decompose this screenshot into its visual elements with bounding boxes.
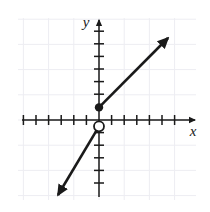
graph-canvas: y x	[0, 0, 210, 212]
closed-endpoint	[95, 103, 103, 111]
x-axis-label: x	[189, 123, 197, 139]
open-endpoint	[94, 121, 104, 131]
upper-ray	[99, 38, 168, 107]
background-grid	[18, 18, 196, 200]
lower-ray	[58, 126, 99, 195]
coordinate-graph-figure: y x	[0, 0, 210, 212]
y-axis-label: y	[81, 14, 90, 30]
